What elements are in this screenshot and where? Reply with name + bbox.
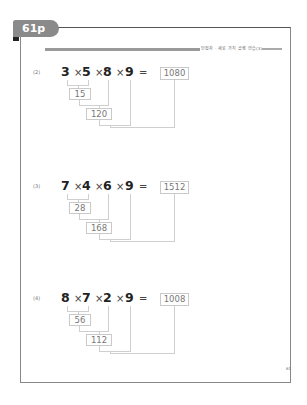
step1-box: 28	[69, 202, 91, 214]
step2-box: 120	[86, 108, 112, 120]
connector	[174, 80, 175, 128]
step2-box: 168	[86, 222, 112, 234]
answer-box: 1080	[160, 67, 189, 80]
connector	[79, 331, 108, 332]
factor-1: 8	[61, 291, 70, 305]
times-sign: ×	[116, 180, 124, 194]
factor-4: 9	[125, 291, 134, 305]
problem-label: (4)	[33, 295, 40, 301]
factor-1: 3	[61, 65, 70, 79]
page-tab: 61p	[13, 20, 59, 37]
connector	[108, 80, 109, 106]
connector	[110, 351, 111, 354]
step1-box: 15	[69, 88, 91, 100]
times-sign: ×	[116, 66, 124, 80]
step2-box: 112	[86, 334, 112, 346]
equals-sign: =	[139, 66, 147, 80]
factor-3: 2	[103, 291, 112, 305]
factor-2: 7	[82, 291, 91, 305]
connector	[99, 351, 130, 352]
factor-4: 9	[125, 179, 134, 193]
connector	[110, 127, 175, 128]
page-tab-label: 61p	[22, 22, 45, 35]
connector	[174, 194, 175, 242]
equals-sign: =	[139, 180, 147, 194]
connector	[130, 194, 131, 240]
header-rule-left	[45, 48, 200, 51]
answer-box: 1008	[160, 293, 189, 306]
connector	[79, 105, 108, 106]
factor-3: 6	[103, 179, 112, 193]
problem-4: (4) 8 × 7 × 2 × 9 = 1008 56 112	[0, 288, 307, 358]
problem-label: (2)	[33, 69, 40, 75]
page-number: 61	[286, 366, 291, 371]
connector	[108, 306, 109, 332]
connector	[110, 241, 175, 242]
problem-label: (3)	[33, 183, 40, 189]
connector	[130, 80, 131, 126]
factor-2: 5	[82, 65, 91, 79]
connector	[174, 306, 175, 354]
connector	[99, 125, 130, 126]
step1-box: 56	[69, 314, 91, 326]
equals-sign: =	[139, 292, 147, 306]
factor-3: 8	[103, 65, 112, 79]
problem-3: (3) 7 × 4 × 6 × 9 = 1512 28 168	[0, 176, 307, 246]
header-rule-right	[262, 48, 282, 50]
tab-corner-mark	[13, 37, 19, 41]
times-sign: ×	[116, 292, 124, 306]
answer-box: 1512	[160, 181, 189, 194]
connector	[110, 125, 111, 128]
connector	[108, 194, 109, 220]
factor-4: 9	[125, 65, 134, 79]
connector	[99, 239, 130, 240]
problem-2: (2) 3 × 5 × 8 × 9 = 1080 15 120	[0, 62, 307, 132]
factor-1: 7	[61, 179, 70, 193]
connector	[110, 239, 111, 242]
factor-2: 4	[82, 179, 91, 193]
connector	[79, 219, 108, 220]
connector	[130, 306, 131, 352]
header-title: 인접자 · 세로 가지 곱셈 연습(3)	[201, 45, 262, 51]
connector	[110, 353, 175, 354]
